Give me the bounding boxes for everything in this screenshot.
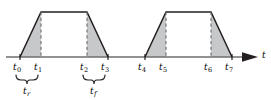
- tick-label-t3: t3: [101, 63, 109, 72]
- waveform-graphic: [0, 0, 271, 100]
- tick-label-t4: t4: [138, 63, 146, 72]
- rise-time-brace-shape: [16, 75, 38, 84]
- tick-label-t7: t7: [225, 63, 233, 72]
- rise-time-label: tr: [23, 87, 30, 96]
- pulse-timing-figure: t0 t1 t2 t3 t4 t5 t6 t7 tr tf t: [0, 0, 271, 100]
- pulse-waveform-outline: [20, 12, 232, 57]
- fall-time-label: tf: [90, 87, 96, 96]
- interval-braces: [16, 75, 105, 84]
- tick-label-t6: t6: [204, 63, 212, 72]
- axis-label-t: t: [262, 51, 266, 60]
- shaded-transition-regions: [20, 12, 232, 57]
- tick-label-t5: t5: [159, 63, 167, 72]
- transition-dashed-lines: [41, 12, 211, 57]
- tick-label-t0: t0: [13, 63, 21, 72]
- tick-label-t2: t2: [80, 63, 88, 72]
- tick-label-t1: t1: [34, 63, 42, 72]
- fall-time-brace-shape: [83, 75, 105, 84]
- axis-arrowhead: [242, 52, 258, 62]
